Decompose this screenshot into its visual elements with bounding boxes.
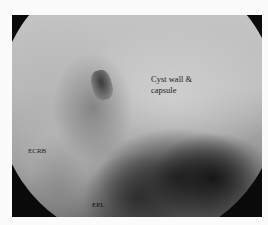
label-cyst-wall-capsule: Cyst wall & capsule [151, 74, 192, 96]
label-epl: EPL [92, 200, 104, 210]
arthroscopic-photo [12, 15, 262, 217]
label-ecrb: ECRB [28, 146, 46, 156]
label-cyst-line1: Cyst wall & [151, 74, 192, 85]
label-cyst-line2: capsule [151, 85, 192, 96]
scope-field-of-view [12, 15, 262, 217]
